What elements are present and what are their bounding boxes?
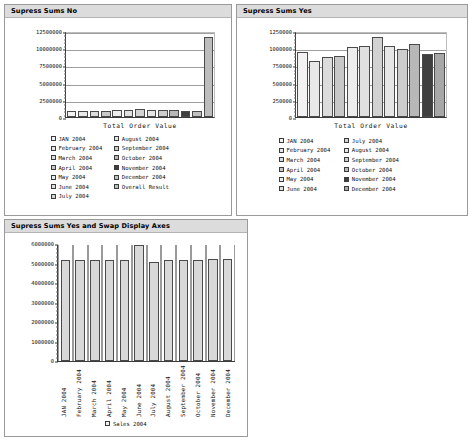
legend-label: September 2004 bbox=[352, 157, 399, 163]
legend-item[interactable]: November 2004 bbox=[344, 174, 399, 184]
bar[interactable] bbox=[112, 110, 122, 117]
bar[interactable] bbox=[120, 260, 130, 361]
bar[interactable] bbox=[204, 37, 214, 117]
legend-item[interactable]: October 2004 bbox=[114, 153, 169, 163]
bar[interactable] bbox=[193, 260, 203, 361]
legend-item[interactable]: August 2004 bbox=[114, 134, 169, 144]
legend-label: September 2004 bbox=[122, 145, 169, 151]
legend-item[interactable]: April 2004 bbox=[279, 165, 330, 175]
y-axis-minor-tick bbox=[56, 248, 58, 249]
bar[interactable] bbox=[223, 259, 233, 361]
category-label-slot: May 2004 bbox=[116, 365, 131, 417]
legend-label: March 2004 bbox=[59, 155, 93, 161]
bar[interactable] bbox=[322, 57, 333, 117]
legend-swatch-icon bbox=[344, 138, 349, 143]
bar[interactable] bbox=[105, 260, 115, 361]
y-axis-minor-tick bbox=[56, 358, 58, 359]
bar[interactable] bbox=[334, 56, 345, 117]
legend-swatch-icon bbox=[279, 186, 284, 191]
legend-swap: Sales 2004 bbox=[5, 419, 247, 429]
legend-label: JAN 2004 bbox=[287, 138, 314, 144]
bar[interactable] bbox=[169, 110, 179, 117]
legend-item[interactable]: February 2004 bbox=[279, 146, 330, 156]
legend-item[interactable]: September 2004 bbox=[344, 155, 399, 165]
bar[interactable] bbox=[297, 52, 308, 117]
y-axis-minor-tick bbox=[56, 346, 58, 347]
bar[interactable] bbox=[134, 245, 144, 361]
legend-item[interactable]: October 2004 bbox=[344, 165, 399, 175]
legend-item[interactable]: April 2004 bbox=[51, 163, 102, 173]
legend-item[interactable]: March 2004 bbox=[279, 155, 330, 165]
bar[interactable] bbox=[347, 47, 358, 117]
bar-slot bbox=[132, 245, 147, 361]
bar-slot bbox=[123, 33, 134, 117]
y-axis-tick-label: 0 bbox=[59, 116, 62, 121]
y-axis-minor-tick bbox=[56, 295, 58, 296]
legend-item[interactable]: JAN 2004 bbox=[51, 134, 102, 144]
y-axis-minor-tick bbox=[56, 268, 58, 269]
bar[interactable] bbox=[179, 260, 189, 362]
bar[interactable] bbox=[434, 53, 445, 117]
legend-item[interactable]: August 2004 bbox=[344, 146, 399, 156]
legend-item[interactable]: JAN 2004 bbox=[279, 136, 330, 146]
bar[interactable] bbox=[147, 110, 157, 117]
bar-slot bbox=[89, 33, 100, 117]
bar[interactable] bbox=[208, 259, 218, 361]
bar[interactable] bbox=[75, 260, 85, 361]
bar[interactable] bbox=[149, 262, 159, 361]
bar[interactable] bbox=[135, 109, 145, 117]
bar-slot bbox=[112, 33, 123, 117]
legend-item[interactable]: Overall Result bbox=[114, 182, 169, 192]
legend-item[interactable]: December 2004 bbox=[114, 172, 169, 182]
bar[interactable] bbox=[90, 260, 100, 361]
bar[interactable] bbox=[359, 46, 370, 117]
category-label: November 2004 bbox=[210, 365, 216, 417]
bar[interactable] bbox=[61, 260, 71, 361]
bar[interactable] bbox=[124, 110, 134, 117]
category-label-slot: April 2004 bbox=[101, 365, 116, 417]
legend-item[interactable]: November 2004 bbox=[114, 163, 169, 173]
legend-item[interactable]: May 2004 bbox=[51, 172, 102, 182]
legend-item[interactable]: December 2004 bbox=[344, 184, 399, 194]
bar[interactable] bbox=[384, 46, 395, 117]
legend-item[interactable]: Sales 2004 bbox=[105, 419, 146, 429]
bar[interactable] bbox=[192, 111, 202, 117]
bar[interactable] bbox=[90, 111, 100, 117]
legend-item[interactable]: June 2004 bbox=[51, 182, 102, 192]
panel-title-swap-axes: Supress Sums Yes and Swap Display Axes bbox=[5, 220, 247, 233]
chart-supress-sums-no: 02500000500000075000001000000012500000 T… bbox=[5, 18, 231, 216]
bar[interactable] bbox=[409, 44, 420, 117]
category-label-slot: June 2004 bbox=[131, 365, 146, 417]
bar[interactable] bbox=[397, 49, 408, 117]
legend-label: October 2004 bbox=[122, 155, 162, 161]
bar[interactable] bbox=[372, 37, 383, 117]
bar[interactable] bbox=[309, 61, 320, 117]
bar[interactable] bbox=[164, 260, 174, 361]
bar-series-no bbox=[66, 33, 214, 117]
plot-area-yes: 025000050000075000010000001250000 bbox=[295, 32, 447, 118]
bar[interactable] bbox=[78, 111, 88, 117]
y-axis-minor-tick bbox=[56, 280, 58, 281]
legend-label: June 2004 bbox=[287, 186, 317, 192]
legend-item[interactable]: June 2004 bbox=[279, 184, 330, 194]
legend-item[interactable]: February 2004 bbox=[51, 144, 102, 154]
y-axis-minor-tick bbox=[56, 338, 58, 339]
y-axis-minor-tick bbox=[56, 256, 58, 257]
bar[interactable] bbox=[422, 54, 433, 117]
bar[interactable] bbox=[181, 111, 191, 117]
legend-swatch-icon bbox=[51, 146, 56, 151]
y-axis-tick-mark bbox=[55, 303, 58, 304]
bar[interactable] bbox=[67, 111, 77, 117]
legend-item[interactable]: March 2004 bbox=[51, 153, 102, 163]
category-label: April 2004 bbox=[106, 365, 112, 417]
legend-item[interactable]: July 2004 bbox=[344, 136, 399, 146]
bar[interactable] bbox=[158, 110, 168, 117]
legend-label: December 2004 bbox=[352, 186, 396, 192]
legend-swatch-icon bbox=[344, 148, 349, 153]
bar-slot bbox=[359, 33, 372, 117]
bar[interactable] bbox=[101, 111, 111, 117]
legend-item[interactable]: May 2004 bbox=[279, 174, 330, 184]
legend-item[interactable]: July 2004 bbox=[51, 192, 102, 202]
bar-slot bbox=[434, 33, 447, 117]
legend-item[interactable]: September 2004 bbox=[114, 144, 169, 154]
